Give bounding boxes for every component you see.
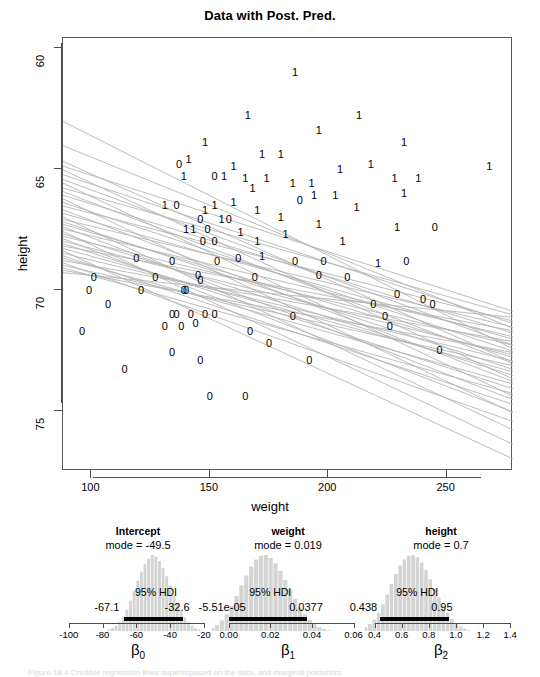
posterior-axis: 0.40.60.81.01.21.4: [365, 623, 517, 643]
data-point-label: 0: [105, 298, 111, 310]
data-point-label: 1: [264, 172, 270, 184]
y-axis-title: height: [15, 224, 30, 284]
x-axis-tick-label: 200: [307, 481, 347, 493]
posterior-mode-label: mode = 0.7: [365, 539, 517, 551]
figure-caption: Figure 18.4 Credible regression lines su…: [28, 668, 528, 677]
data-point-label: 0: [212, 308, 218, 320]
histogram-bar: [249, 566, 253, 631]
data-point-label: 0: [197, 354, 203, 366]
data-point-label: 1: [290, 177, 296, 189]
data-point-label: 0: [437, 344, 443, 356]
data-point-label: 0: [212, 235, 218, 247]
data-point-label: 0: [183, 284, 189, 296]
data-point-label: 1: [316, 218, 322, 230]
y-axis-tick: [54, 289, 62, 290]
posterior-credible-line: [63, 273, 513, 318]
posterior-mode-label: mode = -49.5: [62, 539, 214, 551]
y-axis-line: [61, 43, 62, 403]
data-point-label: 0: [86, 284, 92, 296]
posterior-axis-tick: [136, 623, 137, 628]
data-point-label: 1: [309, 177, 315, 189]
posterior-credible-line: [63, 253, 513, 361]
posterior-axis-tick: [312, 623, 313, 628]
posterior-axis-tick: [375, 623, 376, 628]
hdi-low-value: -67.1: [94, 601, 119, 613]
hdi-bar: [124, 617, 182, 621]
hdi-high-value: -32.6: [165, 601, 190, 613]
hdi-high-value: 0.0377: [289, 601, 323, 613]
posterior-axis-tick-label: 0.00: [207, 629, 251, 640]
data-point-label: 0: [235, 252, 241, 264]
data-point-label: 1: [337, 163, 343, 175]
y-axis-tick-label: 65: [34, 167, 46, 197]
data-point-label: 0: [122, 363, 128, 375]
data-point-label: 0: [387, 320, 393, 332]
data-point-label: 0: [247, 325, 253, 337]
posterior-panel-height: heightmode = 0.795% HDI0.4380.950.40.60.…: [365, 525, 517, 665]
data-point-label: 1: [230, 196, 236, 208]
data-point-label: 0: [344, 271, 350, 283]
posterior-parameter-symbol: β1: [212, 641, 364, 661]
data-point-label: 0: [429, 298, 435, 310]
posterior-axis-tick: [229, 623, 230, 628]
histogram-bar: [162, 568, 165, 631]
data-point-label: 0: [138, 284, 144, 296]
posterior-credible-line: [63, 236, 513, 345]
data-point-label: 1: [249, 182, 255, 194]
hdi-label: 95% HDI: [194, 586, 346, 598]
x-axis-tick-label: 150: [189, 481, 229, 493]
posterior-axis-line: [375, 623, 511, 624]
data-point-label: 1: [245, 109, 251, 121]
hdi-high-value: 0.95: [431, 601, 452, 613]
data-point-label: 0: [133, 252, 139, 264]
data-point-label: 1: [283, 228, 289, 240]
posterior-credible-line: [63, 246, 513, 331]
posterior-panel-intercept: Interceptmode = -49.595% HDI-67.1-32.6-1…: [62, 525, 214, 665]
data-point-label: 1: [401, 187, 407, 199]
data-point-label: 0: [200, 235, 206, 247]
data-point-label: 1: [185, 153, 191, 165]
data-point-label: 0: [79, 325, 85, 337]
beta-subscript: 1: [290, 650, 296, 661]
x-axis-tick: [90, 470, 91, 478]
data-points-layer: 1111111101111110111111111111101101110101…: [79, 66, 492, 402]
data-point-label: 1: [394, 221, 400, 233]
data-point-label: 1: [292, 66, 298, 78]
data-point-label: 0: [176, 158, 182, 170]
data-point-label: 0: [420, 293, 426, 305]
scatter-plot-svg: 1111111101111110111111111111101101110101…: [63, 38, 513, 471]
data-point-label: 1: [221, 170, 227, 182]
posterior-axis-tick: [103, 623, 104, 628]
x-axis-tick-label: 250: [426, 481, 466, 493]
posterior-credible-line: [63, 195, 513, 333]
data-point-label: 0: [370, 298, 376, 310]
data-point-label: 1: [354, 201, 360, 213]
posterior-axis-tick: [170, 623, 171, 628]
x-axis-title: weight: [0, 499, 540, 514]
posterior-axis-tick-label: 0.04: [290, 629, 334, 640]
data-point-label: 1: [190, 223, 196, 235]
beta-glyph: β: [281, 641, 290, 658]
x-axis-line: [93, 477, 481, 478]
y-axis-tick: [54, 168, 62, 169]
posterior-credible-line: [63, 239, 513, 412]
data-point-label: 1: [162, 199, 168, 211]
posterior-axis-tick: [510, 623, 511, 628]
posterior-axis: -100-80-60-40-20: [62, 623, 214, 643]
data-point-label: 0: [320, 255, 326, 267]
data-point-label: 0: [91, 271, 97, 283]
data-point-label: 1: [183, 223, 189, 235]
figure-container: Data with Post. Pred. 111111110111111011…: [0, 0, 540, 677]
x-axis-tick: [446, 470, 447, 478]
main-scatter-panel: Data with Post. Pred. 111111110111111011…: [0, 0, 540, 500]
data-point-label: 0: [403, 255, 409, 267]
data-point-label: 1: [202, 136, 208, 148]
data-point-label: 0: [316, 269, 322, 281]
posterior-axis-tick: [402, 623, 403, 628]
plot-frame: 1111111101111110111111111111101101110101…: [62, 37, 512, 470]
data-point-label: 1: [219, 213, 225, 225]
data-point-label: 1: [238, 226, 244, 238]
data-point-label: 1: [368, 158, 374, 170]
posterior-panel-title: Intercept: [62, 525, 214, 537]
posterior-credible-line: [63, 268, 513, 394]
